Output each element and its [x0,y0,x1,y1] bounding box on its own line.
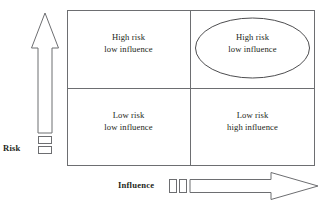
right-arrow-icon [190,173,318,200]
quadrant-top-left-line1: High risk [67,32,190,44]
quadrant-bottom-left-line2: low influence [67,122,190,134]
quadrant-label-bottom-right: Low risk high influence [190,110,315,133]
quadrant-top-right-line1: High risk [190,32,315,44]
quadrant-bottom-right-line2: high influence [190,122,315,134]
risk-axis-handle-2[interactable] [39,147,52,154]
quadrant-bottom-left-line1: Low risk [67,110,190,122]
matrix-canvas [0,0,330,203]
risk-axis-handle-1[interactable] [39,137,52,144]
quadrant-label-top-left: High risk low influence [67,32,190,55]
quadrant-label-top-right: High risk low influence [190,32,315,55]
influence-axis-handle-2[interactable] [180,180,187,193]
up-arrow-icon [32,13,59,133]
quadrant-top-right-line2: low influence [190,44,315,56]
influence-axis-handle-1[interactable] [170,180,177,193]
quadrant-label-bottom-left: Low risk low influence [67,110,190,133]
risk-influence-matrix-diagram: High risk low influence High risk low in… [0,0,330,203]
risk-axis-title: Risk [3,143,21,153]
influence-axis-title: Influence [118,180,154,190]
quadrant-top-left-line2: low influence [67,44,190,56]
quadrant-bottom-right-line1: Low risk [190,110,315,122]
